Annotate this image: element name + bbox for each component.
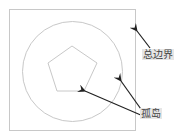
outer-boundary-label: 总边界 [142,49,174,60]
island-circle [23,22,123,122]
island-label: 孤岛 [140,108,162,119]
outer-boundary-square [10,10,136,131]
arrow-to-pentagon [85,91,143,116]
arrow-to-boundary [137,31,150,48]
island-pentagon [48,46,97,91]
